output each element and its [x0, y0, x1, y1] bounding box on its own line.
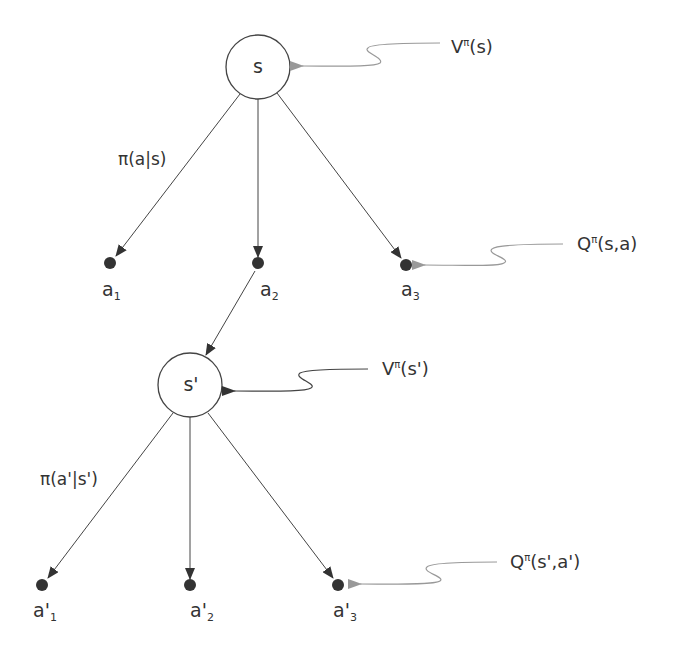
action-label-base: a — [401, 278, 413, 300]
annotation-v-s-prime: Vπ(s') — [382, 358, 429, 379]
action-label-sub: 3 — [413, 290, 420, 303]
annotation-arg: (s',a') — [530, 551, 580, 572]
action-dot-a-prime-2 — [184, 579, 196, 591]
state-label-s-prime: s' — [183, 373, 198, 395]
action-label-a-prime-1: a'1 — [33, 599, 57, 624]
action-dot-a-prime-3 — [332, 579, 344, 591]
edge-a2-s-prime — [206, 271, 255, 355]
action-label-sub: 1 — [114, 290, 121, 303]
action-label-a3: a3 — [401, 278, 420, 303]
action-label-base: a' — [333, 599, 350, 621]
action-label-a2: a2 — [260, 278, 279, 303]
action-label-a-prime-3: a'3 — [333, 599, 357, 624]
action-label-base: a — [102, 278, 114, 300]
action-label-sub: 2 — [207, 611, 214, 624]
action-label-base: a' — [190, 599, 207, 621]
annotation-base: Q — [510, 551, 524, 572]
edge-s-a3 — [277, 93, 401, 258]
annotation-q-sa: Qπ(s,a) — [577, 233, 637, 254]
action-label-base: a' — [33, 599, 50, 621]
state-label-s: s — [253, 55, 263, 77]
annotation-arg: (s,a) — [597, 233, 637, 254]
annotation-base: Q — [577, 233, 591, 254]
edge-s-prime-a3 — [208, 413, 333, 578]
action-label-sub: 3 — [350, 611, 357, 624]
annotation-base: V — [382, 358, 394, 379]
action-label-sub: 2 — [272, 290, 279, 303]
annotation-arg: (s') — [400, 358, 428, 379]
annotation-arg: (s) — [469, 36, 492, 57]
annotation-arrow-v-s — [302, 43, 440, 66]
annotation-base: V — [451, 36, 463, 57]
annotation-arrow-v-s-prime — [234, 369, 368, 391]
action-dot-a1 — [104, 257, 116, 269]
action-label-sub: 1 — [50, 611, 57, 624]
annotation-v-s: Vπ(s) — [451, 36, 493, 57]
policy-label-level2: π(a'|s') — [40, 469, 98, 489]
policy-label-level1: π(a|s) — [118, 149, 167, 169]
action-label-base: a — [260, 278, 272, 300]
annotation-arrow-q-sa — [424, 244, 563, 266]
annotation-arrow-q-s-prime-a-prime — [360, 562, 497, 584]
action-dot-a-prime-1 — [36, 579, 48, 591]
action-label-a1: a1 — [102, 278, 121, 303]
annotation-q-s-prime-a-prime: Qπ(s',a') — [510, 551, 580, 572]
edge-s-a1 — [116, 94, 240, 256]
action-label-a-prime-2: a'2 — [190, 599, 214, 624]
edge-s-prime-a1 — [48, 413, 173, 578]
action-dot-a3 — [400, 259, 412, 271]
action-dot-a2 — [252, 257, 264, 269]
